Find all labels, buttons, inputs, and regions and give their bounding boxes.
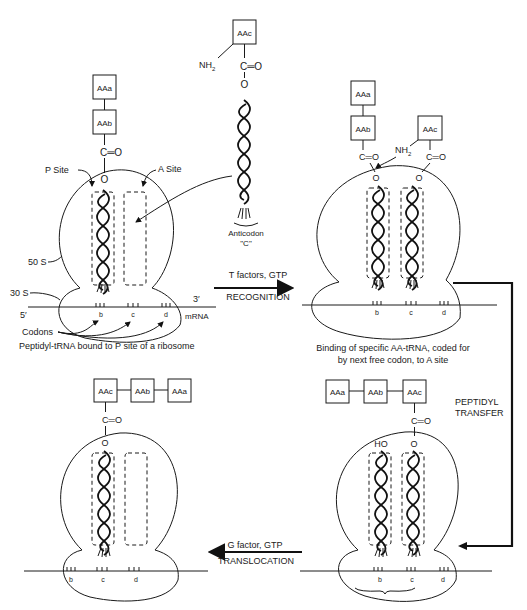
translocation-bottom-label: TRANSLOCATION [218,556,294,566]
subunit-50s-label: 50 S [28,257,47,267]
a-site-box-3 [125,453,147,545]
panel-2-caption-line-1: Binding of specific AA-tRNA, coded for [316,343,470,353]
aa-c-label-3: AAc [98,387,113,396]
aa-a-label-2: AAa [355,90,371,99]
carbonyl-label-free: C═O [240,61,262,72]
aa-a-label-3: AAa [172,387,188,396]
large-subunit-50s-4 [336,432,458,550]
aa-a-label-4: AAa [330,388,346,397]
carbonyl-label-2: C═O [359,152,379,162]
peptidyl-transfer-line-2: TRANSFER [455,408,504,418]
aa-b-label-2: AAb [355,125,371,134]
mrna-label: mRNA [185,312,209,321]
aa-c-label-2: AAc [423,125,438,134]
aa-a-label: AAa [97,84,113,93]
amine-label-2: NH2 [395,145,412,157]
codon-b-label-4: b [378,576,382,583]
anticodon-label: Anticodon [228,229,264,238]
carbonyl-label-3: C═O [102,415,122,425]
carbonyl-label: C═O [100,147,122,158]
p-site-box [92,192,114,285]
large-subunit-50s-3 [61,433,178,550]
recognition-step-arrow: T factors, GTP RECOGNITION [214,270,290,302]
translocation-top-label: G factor, GTP [227,540,282,550]
codon-b-label-3: b [69,576,73,583]
peptidyl-trna-helix-icon [97,190,109,294]
small-subunit-30s-3 [63,550,178,601]
carbonyl-label-2c: C═O [426,152,446,162]
panel-2-caption-line-2: by next free codon, to A site [338,355,449,365]
codon-c-label-3: c [101,576,105,583]
panel-1-peptidyl-trna-p-site: AAa AAb C═O O P Site A Site 50 S 30 S 5′… [10,75,216,351]
aa-b-label-4: AAb [368,388,384,397]
a-site-box [124,192,146,285]
peptidyl-trna-helix-icon-4 [407,451,419,555]
a-site-box-2 [401,188,423,278]
panel-3-after-translocation: AAc AAb AAa C═O O b c d [24,379,208,601]
codon-b-label-2: b [375,309,379,316]
large-subunit-50s [59,170,173,288]
five-prime-label: 5′ [20,310,27,320]
codon-d-label-2: d [442,309,446,316]
panel-2-aa-trna-a-site: AAa AAb C═O AAc C═O NH2 O O b c d Bindin… [302,81,497,365]
small-subunit-30s-4 [339,550,457,601]
codon-b-label: b [99,311,103,318]
aminoacyl-trna-helix-icon [238,100,250,204]
p-site-box-2 [367,188,389,278]
codon-d-label-3: d [134,576,138,583]
aa-c-label-4: AAc [407,388,422,397]
carbonyl-label-4: C═O [411,416,431,426]
deacylated-trna-helix-icon-4 [375,451,387,555]
amine-label: NH2 [199,60,216,72]
small-subunit-30s-2 [312,280,461,339]
aa-c-label: AAc [237,29,252,38]
oxygen-label-3: O [101,438,108,448]
hydroxyl-label-4: HO [374,439,388,449]
subunit-30s-label: 30 S [10,288,29,298]
codon-d-label-4: d [441,576,445,583]
panel-1-caption: Peptidyl-tRNA bound to P site of a ribos… [19,341,194,351]
oxygen-label: O [101,174,109,185]
three-prime-label: 3′ [193,294,200,304]
codon-c-label-2: c [409,309,413,316]
ribosome-elongation-diagram: AAa AAb C═O O P Site A Site 50 S 30 S 5′… [0,0,527,610]
oxygen-label-2a: O [415,173,422,183]
translocation-step-arrow: G factor, GTP TRANSLOCATION [212,540,302,566]
p-site-label: P Site [45,165,69,175]
oxygen-label-2p: O [372,173,379,183]
aminoacyl-trna-helix-icon-2 [406,186,418,290]
free-aminoacyl-trna: AAc NH2 C═O O Anticodon "C" [136,20,264,248]
a-site-label: A Site [158,164,182,174]
oxygen-label-4: O [410,439,417,449]
aa-b-label: AAb [97,119,113,128]
recognition-bottom-label: RECOGNITION [226,292,290,302]
small-subunit-30s [59,288,181,342]
peptidyl-trna-helix-icon-3 [98,451,110,555]
aa-b-label-3: AAb [135,387,151,396]
codon-d-label: d [164,311,168,318]
codon-c-label-4: c [410,576,414,583]
codons-label: Codons [22,327,54,337]
peptidyl-transfer-step-arrow: PEPTIDYL TRANSFER [453,283,512,550]
recognition-top-label: T factors, GTP [229,270,287,280]
anticodon-name-label: "C" [240,239,252,248]
codon-brace [355,588,415,594]
peptidyl-transfer-line-1: PEPTIDYL [455,397,499,407]
oxygen-label-free: O [241,79,249,90]
peptidyl-trna-helix-icon-2 [372,186,384,290]
a-site-box-4 [402,453,424,545]
large-subunit-50s-2 [317,166,460,282]
codon-c-label: c [131,311,135,318]
